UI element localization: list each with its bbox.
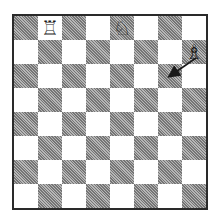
square-g8: [158, 16, 182, 40]
square-h7: ♗: [182, 40, 206, 64]
square-c6: [62, 64, 86, 88]
square-g4: [158, 112, 182, 136]
square-f2: [134, 160, 158, 184]
white-knight-icon: ♘: [113, 18, 131, 38]
square-h1: [182, 184, 206, 208]
square-a4: [14, 112, 38, 136]
square-d7: [86, 40, 110, 64]
square-f7: [134, 40, 158, 64]
chess-board: ♖♘♗: [12, 14, 208, 210]
square-b7: [38, 40, 62, 64]
square-h6: [182, 64, 206, 88]
square-f6: [134, 64, 158, 88]
square-h4: [182, 112, 206, 136]
square-h3: [182, 136, 206, 160]
square-e7: [110, 40, 134, 64]
square-a1: [14, 184, 38, 208]
square-b8: ♖: [38, 16, 62, 40]
square-g1: [158, 184, 182, 208]
square-a3: [14, 136, 38, 160]
square-g5: [158, 88, 182, 112]
square-d1: [86, 184, 110, 208]
square-d6: [86, 64, 110, 88]
square-g2: [158, 160, 182, 184]
square-b6: [38, 64, 62, 88]
square-b1: [38, 184, 62, 208]
white-bishop-icon: ♗: [185, 42, 203, 62]
square-e1: [110, 184, 134, 208]
square-c3: [62, 136, 86, 160]
square-d3: [86, 136, 110, 160]
square-a7: [14, 40, 38, 64]
square-b2: [38, 160, 62, 184]
square-c1: [62, 184, 86, 208]
square-e5: [110, 88, 134, 112]
white-rook-icon: ♖: [41, 18, 59, 38]
square-e4: [110, 112, 134, 136]
square-f8: [134, 16, 158, 40]
square-c8: [62, 16, 86, 40]
square-c7: [62, 40, 86, 64]
square-c2: [62, 160, 86, 184]
square-h5: [182, 88, 206, 112]
square-d2: [86, 160, 110, 184]
square-g6: [158, 64, 182, 88]
square-f1: [134, 184, 158, 208]
square-a8: [14, 16, 38, 40]
square-h8: [182, 16, 206, 40]
square-g3: [158, 136, 182, 160]
square-f5: [134, 88, 158, 112]
square-b4: [38, 112, 62, 136]
square-e8: ♘: [110, 16, 134, 40]
square-b5: [38, 88, 62, 112]
square-c4: [62, 112, 86, 136]
square-a5: [14, 88, 38, 112]
square-a6: [14, 64, 38, 88]
square-f4: [134, 112, 158, 136]
square-f3: [134, 136, 158, 160]
square-e2: [110, 160, 134, 184]
square-b3: [38, 136, 62, 160]
square-e3: [110, 136, 134, 160]
square-d8: [86, 16, 110, 40]
square-g7: [158, 40, 182, 64]
square-d5: [86, 88, 110, 112]
square-h2: [182, 160, 206, 184]
square-c5: [62, 88, 86, 112]
square-e6: [110, 64, 134, 88]
square-a2: [14, 160, 38, 184]
square-d4: [86, 112, 110, 136]
